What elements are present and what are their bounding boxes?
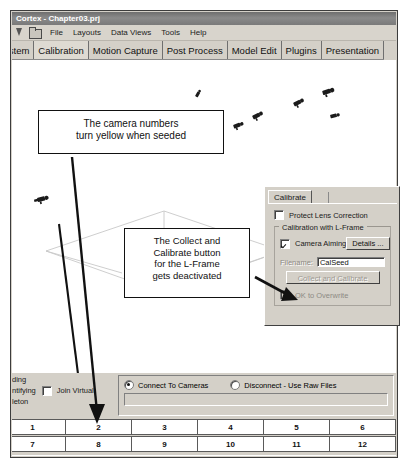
tab-calibration[interactable]: Calibration [34,41,88,59]
volume-edge-line [59,224,78,374]
camera-cell-6[interactable]: 6 [329,419,396,435]
menu-item-data-views[interactable]: Data Views [106,28,156,37]
tab-plugins[interactable]: Plugins [282,41,322,59]
callout-camera-line1: The camera numbers [39,118,223,130]
menu-bar: File Layouts Data Views Tools Help [12,25,396,41]
group-title: Calibration with L-Frame [279,223,367,232]
callout-collect-calibrate: The Collect and Calibrate button for the… [124,228,250,298]
join-virtual-row[interactable]: ntifying Join Virtual [12,386,120,396]
tab-calibrate[interactable]: Calibrate [268,190,312,203]
protect-lens-correction-row[interactable]: Protect Lens Correction [274,210,391,220]
tab-strip-filler [312,192,329,203]
radio-disconnect-raw-files-label: Disconnect - Use Raw Files [244,381,336,390]
connection-radio-row: Connect To Cameras Disconnect - Use Raw … [124,380,388,390]
callout-collect-line3: for the L-Frame [125,258,249,270]
camera-cell-8[interactable]: 8 [65,436,132,452]
camera-aiming-checkbox[interactable] [280,239,290,249]
menu-item-file[interactable]: File [45,28,68,37]
ok-to-overwrite-row[interactable]: OK to Overwrite [280,290,385,300]
tab-presentation[interactable]: Presentation [322,41,384,59]
window-titlebar[interactable]: Cortex - Chapter03.prj [12,12,396,25]
camera-cell-4[interactable]: 4 [197,419,264,435]
calibrate-dialog-body: Protect Lens Correction Calibration with… [268,203,397,323]
filename-input[interactable]: CalSeed [317,257,385,267]
ok-to-overwrite-label: OK to Overwrite [295,291,348,300]
callout-camera-line2: turn yellow when seeded [39,130,223,142]
status-strip [12,455,396,456]
camera-cell-10[interactable]: 10 [197,436,264,452]
camera-aiming-label: Camera Aiming [295,239,346,248]
calibrate-dialog-tabrow: Calibrate [268,190,397,203]
tab-system[interactable]: ystem [12,41,34,59]
camera-cell-3[interactable]: 3 [131,419,198,435]
bottom-label-line3: leton [12,397,120,407]
ok-to-overwrite-checkbox[interactable] [280,290,290,300]
camera-cell-12[interactable]: 12 [329,436,396,452]
module-tab-strip: ystem Calibration Motion Capture Post Pr… [12,41,384,60]
collect-and-calibrate-button[interactable]: Collect and Calibrate [286,271,380,284]
bottom-label-line2: ntifying [12,386,36,396]
camera-number-grid: 1 2 3 4 5 6 7 8 9 10 11 12 [12,419,396,456]
details-button[interactable]: Details ... [346,237,389,250]
protect-lens-correction-label: Protect Lens Correction [289,211,368,220]
bottom-option-bar: ding ntifying Join Virtual leton Connect… [12,373,396,419]
camera-cell-9[interactable]: 9 [131,436,198,452]
radio-connect-to-cameras[interactable] [124,380,134,390]
pointer-icon[interactable] [13,27,26,39]
bottom-left-labels: ding ntifying Join Virtual leton [12,375,120,407]
join-virtual-label: Join Virtual [57,386,94,396]
camera-row-top: 1 2 3 4 5 6 [12,419,396,436]
raw-files-path-input[interactable] [124,393,388,406]
menu-item-help[interactable]: Help [185,28,211,37]
radio-connect-to-cameras-label: Connect To Cameras [138,381,208,390]
callout-camera-numbers: The camera numbers turn yellow when seed… [38,110,224,154]
camera-cell-11[interactable]: 11 [263,436,330,452]
camera-aiming-row: Camera Aiming Details ... [280,237,385,250]
camera-cell-2[interactable]: 2 [65,419,132,435]
calibrate-dialog[interactable]: Calibrate Protect Lens Correction Calibr… [264,186,400,326]
tab-motion-capture[interactable]: Motion Capture [89,41,163,59]
tab-post-process[interactable]: Post Process [163,41,228,59]
camera-cell-5[interactable]: 5 [263,419,330,435]
filename-label: Filename: [280,258,313,267]
window-title: Cortex - Chapter03.prj [16,14,100,23]
bottom-label-line1: ding [12,375,120,385]
tab-model-edit[interactable]: Model Edit [228,41,282,59]
callout-collect-line2: Calibrate button [125,247,249,259]
connection-panel: Connect To Cameras Disconnect - Use Raw … [118,375,394,416]
callout-collect-line1: The Collect and [125,235,249,247]
camera-cell-1[interactable]: 1 [12,419,66,435]
join-virtual-checkbox[interactable] [42,386,52,396]
camera-cell-7[interactable]: 7 [12,436,66,452]
camera-row-bottom: 7 8 9 10 11 12 [12,436,396,453]
folder-icon[interactable] [29,29,42,39]
menu-item-layouts[interactable]: Layouts [68,28,106,37]
calibration-with-l-frame-group: Calibration with L-Frame Camera Aiming D… [274,226,391,306]
menu-item-tools[interactable]: Tools [156,28,185,37]
screenshot-root: Cortex - Chapter03.prj File Layouts Data… [0,0,418,475]
radio-disconnect-raw-files[interactable] [230,380,240,390]
filename-row: Filename: CalSeed [280,257,385,267]
protect-lens-correction-checkbox[interactable] [274,210,284,220]
callout-collect-line4: gets deactivated [125,270,249,282]
